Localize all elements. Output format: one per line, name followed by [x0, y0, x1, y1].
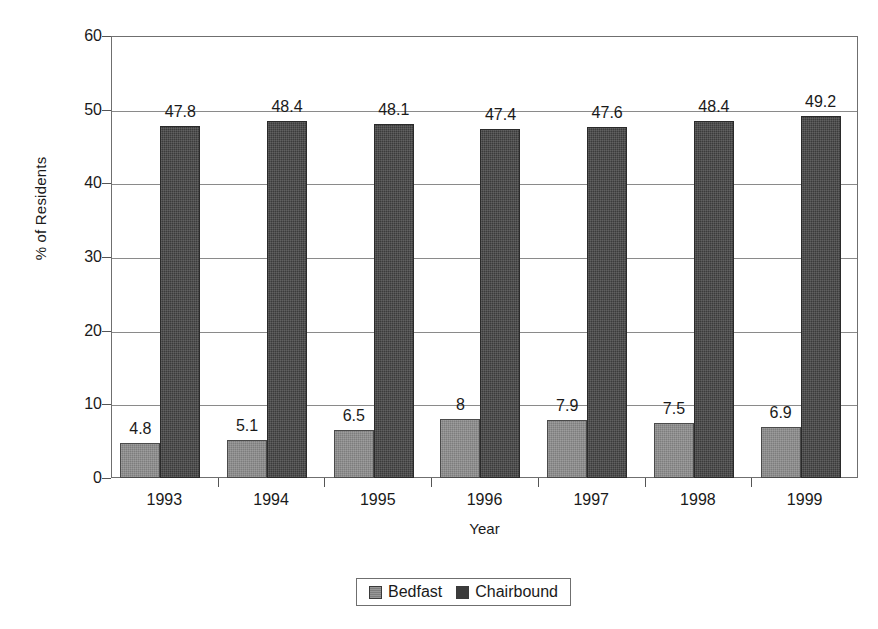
y-tick-label: 0 [32, 470, 102, 486]
legend-label-chairbound: Chairbound [475, 584, 558, 600]
x-tick-mark [431, 478, 432, 487]
legend-item-chairbound: Chairbound [456, 584, 558, 600]
x-tick-mark [538, 478, 539, 487]
x-tick-label-1996: 1996 [431, 491, 538, 509]
x-tick-mark [751, 478, 752, 487]
x-tick-mark [645, 478, 646, 487]
bar-chart: % of Residents 0102030405060 4.847.85.14… [0, 0, 878, 629]
gridline [112, 111, 857, 112]
y-tick-mark [102, 36, 111, 37]
gridline [112, 405, 857, 406]
x-tick-label-1997: 1997 [538, 491, 645, 509]
y-tick-mark [102, 331, 111, 332]
legend-item-bedfast: Bedfast [369, 584, 442, 600]
x-axis-title: Year [111, 520, 858, 537]
gridline [112, 258, 857, 259]
y-tick-mark [102, 404, 111, 405]
x-tick-mark [324, 478, 325, 487]
y-tick-label: 60 [32, 28, 102, 44]
y-tick-label: 30 [32, 249, 102, 265]
y-tick-mark [102, 183, 111, 184]
x-tick-mark [218, 478, 219, 487]
legend-label-bedfast: Bedfast [388, 584, 442, 600]
x-tick-label-1998: 1998 [645, 491, 752, 509]
x-tick-label-1999: 1999 [751, 491, 858, 509]
chart-legend: Bedfast Chairbound [356, 578, 571, 606]
x-tick-label-1994: 1994 [218, 491, 325, 509]
y-tick-mark [102, 257, 111, 258]
y-tick-label: 20 [32, 323, 102, 339]
y-tick-mark [102, 110, 111, 111]
gridline [112, 184, 857, 185]
y-tick-mark [102, 478, 111, 479]
x-tick-label-1993: 1993 [111, 491, 218, 509]
y-tick-label: 10 [32, 396, 102, 412]
legend-swatch-chairbound-icon [456, 586, 469, 599]
y-tick-label: 40 [32, 175, 102, 191]
legend-swatch-bedfast-icon [369, 586, 382, 599]
y-tick-label: 50 [32, 102, 102, 118]
gridline [112, 332, 857, 333]
plot-area [111, 36, 858, 478]
x-tick-label-1995: 1995 [324, 491, 431, 509]
y-axis-ticks: 0102030405060 [0, 36, 102, 478]
